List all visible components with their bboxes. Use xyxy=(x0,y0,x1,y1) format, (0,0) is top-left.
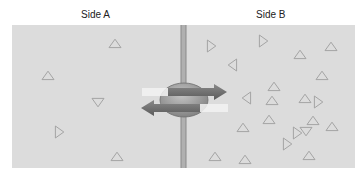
solute-triangle-icon xyxy=(326,122,338,130)
solute-triangle-icon xyxy=(294,50,306,58)
solute-triangle-icon xyxy=(283,138,291,150)
solute-triangle-icon xyxy=(111,152,123,160)
solute-triangle-icon xyxy=(92,98,104,106)
solute-triangle-icon xyxy=(314,96,322,108)
solute-triangle-icon xyxy=(325,42,337,50)
solute-triangle-icon xyxy=(300,127,312,135)
transport-diagram xyxy=(0,0,363,185)
solute-triangle-icon xyxy=(239,155,251,163)
solute-triangle-icon xyxy=(228,59,236,71)
solute-triangle-icon xyxy=(242,92,250,104)
solute-triangle-icon xyxy=(237,123,249,131)
side-b-solutes xyxy=(207,35,338,164)
solute-triangle-icon xyxy=(109,39,121,47)
solute-triangle-icon xyxy=(209,152,221,160)
solute-triangle-icon xyxy=(266,96,278,104)
side-a-solutes xyxy=(42,39,123,160)
solute-triangle-icon xyxy=(299,94,311,102)
solute-triangle-icon xyxy=(263,115,275,123)
solute-triangle-icon xyxy=(307,116,319,124)
solute-triangle-icon xyxy=(268,82,280,90)
solute-triangle-icon xyxy=(259,35,267,47)
solute-triangle-icon xyxy=(42,71,54,79)
solute-triangle-icon xyxy=(303,151,315,159)
solute-triangle-icon xyxy=(207,40,215,52)
solute-triangle-icon xyxy=(316,71,328,79)
solute-triangle-icon xyxy=(55,126,63,138)
